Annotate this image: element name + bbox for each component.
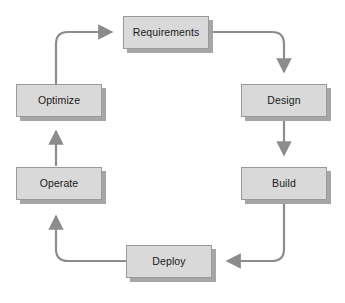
node-requirements[interactable]: Requirements (123, 16, 209, 49)
node-label-deploy: Deploy (152, 256, 185, 267)
node-label-build: Build (272, 178, 296, 189)
node-build[interactable]: Build (241, 167, 327, 200)
node-design[interactable]: Design (241, 84, 327, 117)
node-deploy[interactable]: Deploy (126, 245, 212, 278)
connector-requirements-to-design (211, 32, 284, 72)
connector-build-to-deploy (227, 204, 284, 261)
diagram-canvas: Requirements Design Build Deploy Operate… (0, 0, 345, 303)
node-operate[interactable]: Operate (16, 167, 102, 200)
node-label-requirements: Requirements (133, 27, 200, 38)
connector-deploy-to-operate (56, 216, 126, 261)
node-label-operate: Operate (40, 178, 79, 189)
connector-optimize-to-requirements (56, 32, 112, 84)
node-optimize[interactable]: Optimize (16, 84, 102, 117)
node-label-optimize: Optimize (38, 95, 80, 106)
node-label-design: Design (267, 95, 300, 106)
